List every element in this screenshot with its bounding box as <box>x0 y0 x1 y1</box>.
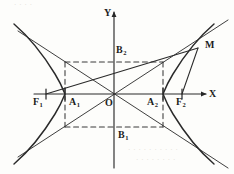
y-axis-label: Y <box>104 8 111 18</box>
covertex-top-label: B2 <box>116 45 126 55</box>
vertex-left-label: A1 <box>69 97 80 107</box>
figure-canvas <box>0 0 234 174</box>
vertex-right-label: A2 <box>147 97 158 107</box>
hyperbola-figure: · · · · · · · · · · · · · · · · · · · · … <box>0 0 234 174</box>
point-m-label: M <box>205 40 215 50</box>
covertex-bottom-subscript: 1 <box>125 134 128 141</box>
focus-left-subscript: 1 <box>40 101 43 108</box>
focus-right-label: F2 <box>176 97 186 107</box>
covertex-top-subscript: 2 <box>123 49 126 56</box>
focus-right-subscript: 2 <box>183 101 186 108</box>
vertex-right-subscript: 2 <box>155 101 158 108</box>
focus-left-label: F1 <box>33 97 43 107</box>
segment-f2-m <box>182 48 198 94</box>
covertex-bottom-label: B1 <box>118 130 128 140</box>
origin-label: O <box>105 98 113 108</box>
vertex-left-subscript: 1 <box>77 101 80 108</box>
x-axis-label: X <box>209 89 216 99</box>
